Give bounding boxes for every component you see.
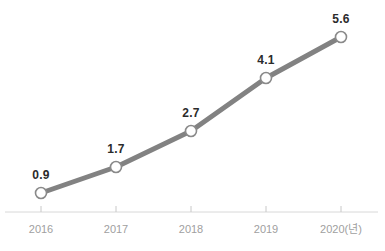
- data-point-label: 1.7: [107, 143, 125, 155]
- data-point-marker[interactable]: [336, 32, 347, 43]
- line-chart: 0.91.72.74.15.6 20162017201820192020(년): [0, 0, 385, 251]
- chart-canvas: [0, 0, 385, 251]
- data-point-label: 2.7: [182, 107, 200, 119]
- data-point-label: 0.9: [32, 169, 50, 181]
- x-axis-tick-label: 2019: [254, 224, 278, 235]
- data-point-marker[interactable]: [111, 162, 122, 173]
- x-axis-tick-label: 2020(년): [320, 224, 362, 235]
- data-point-marker[interactable]: [36, 188, 47, 199]
- x-axis-tick-label: 2017: [104, 224, 128, 235]
- data-point-marker[interactable]: [186, 126, 197, 137]
- x-axis-tick-label: 2018: [179, 224, 203, 235]
- data-point-label: 5.6: [332, 13, 350, 25]
- data-point-marker[interactable]: [261, 73, 272, 84]
- x-axis-tick-label: 2016: [29, 224, 53, 235]
- x-axis-tick-marks: [41, 206, 341, 212]
- x-axis: [5, 206, 378, 212]
- data-point-label: 4.1: [257, 54, 275, 66]
